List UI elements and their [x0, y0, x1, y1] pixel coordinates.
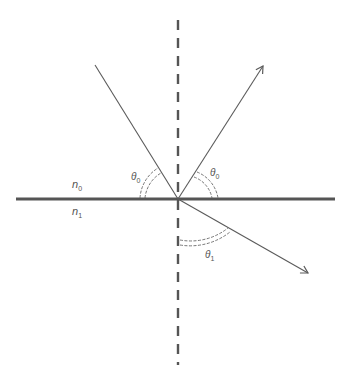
theta-incident-label: θ0: [131, 171, 140, 184]
n0-label: n0: [72, 178, 82, 192]
diagram-svg: n0 n1 θ0 θ0 θ1: [0, 0, 346, 374]
theta-reflected-label: θ0: [210, 167, 219, 180]
refracted-ray-arrow: [178, 199, 308, 273]
theta-refracted-label: θ1: [205, 249, 214, 262]
reflected-ray-arrow: [178, 66, 263, 199]
incident-angle-arc-icon: [140, 168, 161, 198]
diagram-canvas: n0 n1 θ0 θ0 θ1: [0, 0, 346, 374]
n1-label: n1: [72, 205, 82, 219]
refracted-angle-arc-icon: [180, 228, 230, 246]
